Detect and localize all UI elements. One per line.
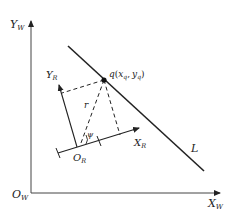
angle-psi-label: ψ (87, 130, 94, 139)
world-origin-label: OW (12, 188, 29, 202)
point-q-label: q(xq,yq) (109, 69, 145, 81)
point-q (101, 77, 106, 82)
line-l (68, 46, 204, 171)
distance-r-label: r (84, 100, 89, 110)
robot-y-label: YR (46, 69, 58, 82)
robot-x-label: XR (133, 137, 146, 150)
dashed-proj-xr (104, 80, 120, 135)
robot-origin-label: OR (73, 152, 86, 165)
world-x-label: XW (207, 197, 224, 211)
world-y-label: YW (10, 18, 25, 32)
line-l-label: L (190, 142, 198, 155)
dashed-proj-yr (62, 80, 104, 93)
diagram-canvas: YW OW XW YR XR OR L r ψ q(xq,yq) (0, 0, 236, 220)
robot-y-axis (59, 85, 77, 147)
